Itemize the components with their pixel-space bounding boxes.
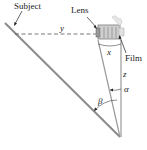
alpha-arrowhead xyxy=(110,89,113,92)
film-label: Film xyxy=(125,53,142,63)
lens-leader xyxy=(87,17,96,27)
subject-leader xyxy=(15,11,22,24)
x-bracket xyxy=(98,44,121,46)
subject-arrowhead xyxy=(14,22,17,26)
lens-label: Lens xyxy=(71,5,89,15)
camera-geometry-diagram: Subject Lens Film y x z α β xyxy=(0,0,147,150)
subject-label: Subject xyxy=(14,1,41,11)
x-label: x xyxy=(106,47,111,57)
y-label: y xyxy=(59,23,64,33)
alpha-label: α xyxy=(124,84,129,94)
z-label: z xyxy=(122,69,127,79)
lens-arrowhead xyxy=(94,25,98,29)
beta-label: β xyxy=(97,96,103,106)
subject-line xyxy=(5,23,120,137)
